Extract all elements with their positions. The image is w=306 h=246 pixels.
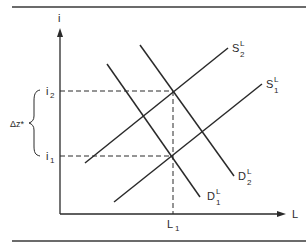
svg-text:L: L: [247, 167, 252, 176]
svg-text:L: L: [274, 75, 279, 84]
svg-text:D: D: [207, 190, 215, 202]
svg-text:S: S: [266, 78, 273, 90]
svg-text:2: 2: [50, 91, 55, 100]
svg-text:i: i: [46, 150, 48, 162]
label-S1: S L 1: [266, 75, 279, 95]
label-S2: S L 2: [232, 39, 245, 59]
svg-text:1: 1: [50, 156, 55, 165]
svg-text:2: 2: [240, 50, 245, 59]
svg-text:1: 1: [216, 198, 221, 207]
y-axis-label: i: [58, 12, 60, 24]
x-axis-arrow-icon: [277, 211, 286, 217]
labor-market-diagram: i L i 2 i 1 L 1 Δz* S L 2 S L 1 D L 2 D …: [0, 0, 306, 246]
brace-icon: [29, 90, 40, 156]
svg-text:S: S: [232, 42, 239, 54]
svg-text:1: 1: [274, 86, 279, 95]
svg-text:i: i: [46, 85, 48, 97]
svg-text:L: L: [216, 187, 221, 196]
demand-curve-2: [140, 45, 234, 176]
delta-z-label: Δz*: [10, 119, 25, 129]
supply-curve-1: [114, 84, 262, 202]
svg-text:1: 1: [175, 224, 180, 233]
x-axis-label: L: [292, 208, 298, 220]
supply-curve-2: [85, 48, 228, 163]
svg-text:L: L: [240, 39, 245, 48]
tick-i2: i 2: [46, 85, 55, 100]
tick-L1: L 1: [167, 218, 180, 233]
y-axis-arrow-icon: [57, 28, 63, 37]
label-D1: D L 1: [207, 187, 221, 207]
demand-curve-1: [107, 64, 200, 197]
svg-text:D: D: [238, 170, 246, 182]
svg-text:L: L: [167, 218, 173, 230]
label-D2: D L 2: [238, 167, 252, 187]
svg-text:2: 2: [247, 178, 252, 187]
tick-i1: i 1: [46, 150, 55, 165]
